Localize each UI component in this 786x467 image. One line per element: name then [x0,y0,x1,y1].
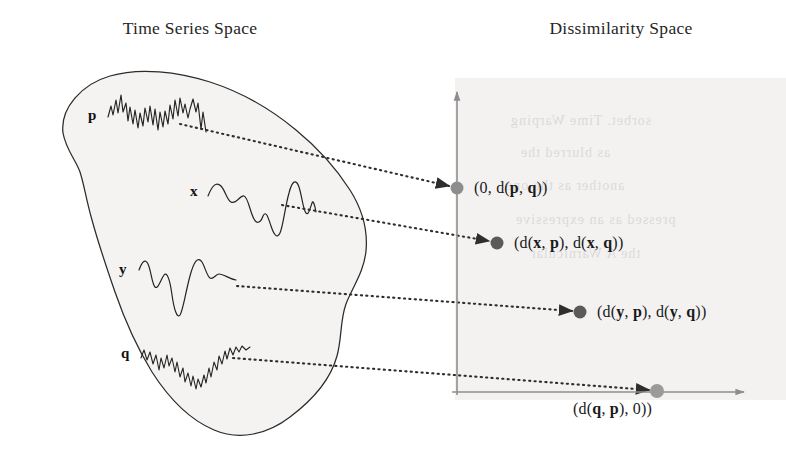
data-point-label-q: (d(q, p), 0)) [573,400,652,418]
data-point-label-p: (0, d(p, q)) [474,179,548,197]
data-point-x[interactable] [491,237,504,250]
series-label-q: q [121,345,129,362]
series-label-x: x [190,183,198,200]
data-point-q[interactable] [650,384,664,398]
time-series-space-blob [63,71,367,435]
data-point-label-x: (d(x, p), d(x, q)) [514,234,623,252]
data-point-label-y: (d(y, p), d(y, q)) [597,303,706,321]
data-point-p[interactable] [451,182,464,195]
figure-canvas: Time Series Space Dissimilarity Space [0,0,786,467]
series-label-y: y [119,261,127,278]
data-point-y[interactable] [574,306,587,319]
series-label-p: p [88,107,96,124]
figure-vector-layer [0,0,786,467]
